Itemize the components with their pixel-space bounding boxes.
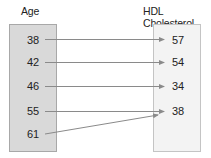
arrow-61-to-38 — [45, 115, 158, 134]
mapping-arrows — [0, 0, 211, 158]
